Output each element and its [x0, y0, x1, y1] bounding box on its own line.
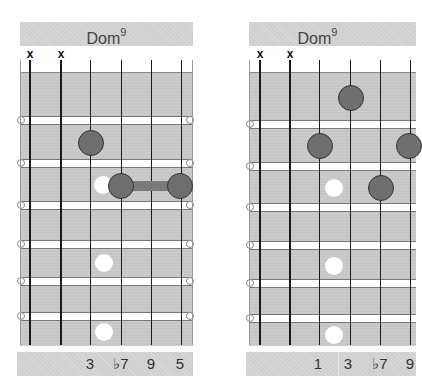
- string-4: [319, 60, 320, 345]
- string-3: [121, 60, 122, 345]
- chord-title-bar: Dom9: [20, 22, 193, 46]
- finger-dot: [108, 173, 134, 199]
- fret-marker-icon: [246, 162, 254, 170]
- fret-marker-icon: [17, 240, 25, 248]
- string-5: [60, 60, 62, 345]
- string-6: [259, 60, 261, 345]
- fret-line: [249, 279, 416, 288]
- muted-string-x: x: [25, 48, 35, 60]
- chord-extension: 9: [120, 26, 126, 38]
- fret-inlay-icon: [95, 254, 113, 272]
- fret-line: [20, 201, 193, 210]
- muted-string-x: x: [285, 48, 295, 60]
- string-4: [90, 60, 91, 345]
- fret-marker-icon: [17, 277, 25, 285]
- interval-label: 9: [398, 352, 422, 376]
- interval-label: ♭7: [368, 352, 392, 376]
- board-edge: [20, 60, 21, 345]
- string-2: [151, 60, 152, 345]
- fret-marker-icon: [17, 201, 25, 209]
- interval-label: 5: [168, 352, 192, 376]
- chord-extension: 9: [331, 26, 337, 38]
- fret-line: [249, 314, 416, 323]
- interval-label: ♭7: [109, 352, 133, 376]
- interval-bar: [17, 352, 193, 376]
- finger-dot: [368, 175, 394, 201]
- fret-line: [20, 277, 193, 286]
- interval-label: 3: [336, 352, 360, 376]
- muted-string-x: x: [56, 48, 66, 60]
- fret-line: [20, 116, 193, 125]
- fret-line: [249, 162, 416, 171]
- fret-marker-icon: [246, 241, 254, 249]
- string-1: [181, 60, 182, 345]
- fret-line: [20, 312, 193, 321]
- finger-dot: [78, 130, 104, 156]
- fret-line: [20, 159, 193, 168]
- finger-dot: [338, 85, 364, 111]
- fret-marker-icon: [246, 314, 254, 322]
- nut-gap: [20, 60, 193, 72]
- string-2: [380, 60, 381, 345]
- fret-marker-icon: [246, 279, 254, 287]
- finger-dot: [396, 133, 422, 159]
- fret-inlay-icon: [325, 257, 343, 275]
- fret-inlay-icon: [325, 326, 343, 344]
- chord-name: Dom: [298, 30, 332, 47]
- interval-label: 9: [139, 352, 163, 376]
- fret-marker-icon: [17, 116, 25, 124]
- fret-marker-icon: [17, 159, 25, 167]
- string-5: [289, 60, 291, 345]
- board-edge: [249, 60, 250, 345]
- string-6: [29, 60, 31, 345]
- finger-dot: [167, 173, 193, 199]
- interval-label: 3: [78, 352, 102, 376]
- fret-line: [20, 240, 193, 249]
- chord-title-bar: Dom9: [249, 22, 416, 46]
- fret-marker-icon: [246, 120, 254, 128]
- finger-dot: [307, 133, 333, 159]
- fret-inlay-icon: [325, 179, 343, 197]
- chord-name: Dom: [87, 30, 121, 47]
- board-edge: [192, 60, 193, 345]
- fret-line: [249, 241, 416, 250]
- fret-marker-icon: [17, 312, 25, 320]
- fret-inlay-icon: [95, 323, 113, 341]
- fret-line: [249, 120, 416, 129]
- interval-label: 1: [306, 352, 330, 376]
- nut-gap: [249, 60, 416, 72]
- fret-marker-icon: [246, 203, 254, 211]
- fret-line: [249, 203, 416, 212]
- muted-string-x: x: [255, 48, 265, 60]
- string-1: [410, 60, 411, 345]
